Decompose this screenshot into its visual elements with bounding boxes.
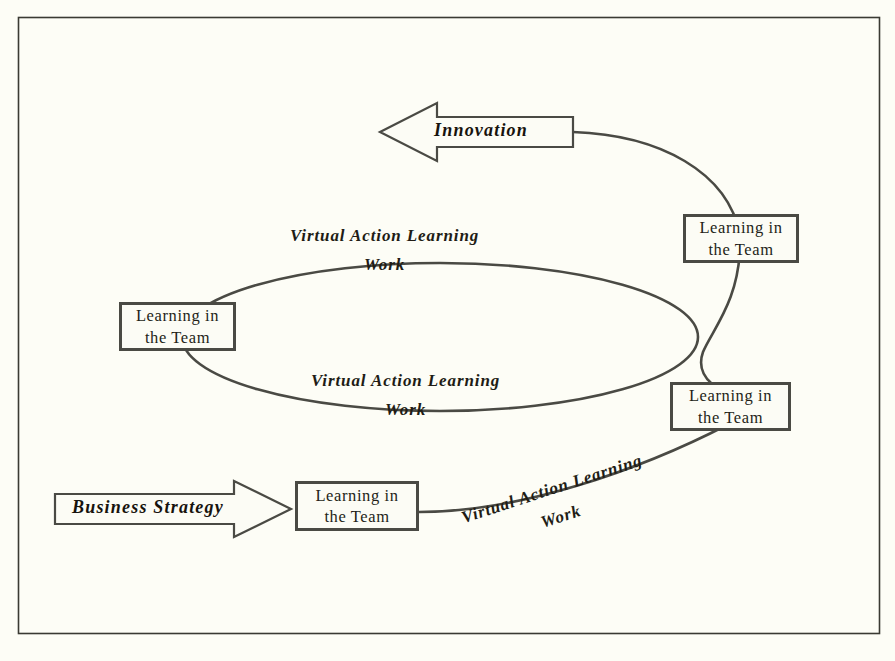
node-label-line2: the Team [145,327,210,348]
curve-label-line2: Work [311,400,500,420]
node-label-line2: the Team [698,407,763,428]
node-label-line1: Learning in [699,217,782,238]
diagram-canvas: Learning in the Team Learning in the Tea… [0,0,895,661]
curve-label-upper-ellipse: Virtual Action Learning Work [290,226,479,275]
node-team-bottom-right[interactable]: Learning in the Team [670,382,791,431]
arrow-label-innovation: Innovation [434,120,528,141]
team-to-team-right-curve [701,243,740,392]
node-label-line1: Learning in [689,385,772,406]
node-label-line2: the Team [324,506,389,527]
node-label-line2: the Team [708,239,773,260]
node-team-top-right[interactable]: Learning in the Team [683,214,799,263]
curve-label-line2: Work [290,255,479,275]
node-label-line1: Learning in [136,305,219,326]
curve-label-line1: Virtual Action Learning [311,371,500,391]
curve-label-line1: Virtual Action Learning [290,226,479,246]
curve-label-lower-ellipse: Virtual Action Learning Work [311,371,500,420]
node-label-line1: Learning in [315,485,398,506]
arrow-label-business-strategy: Business Strategy [72,497,224,518]
node-team-bottom-left[interactable]: Learning in the Team [295,481,419,531]
node-team-left[interactable]: Learning in the Team [119,302,236,351]
